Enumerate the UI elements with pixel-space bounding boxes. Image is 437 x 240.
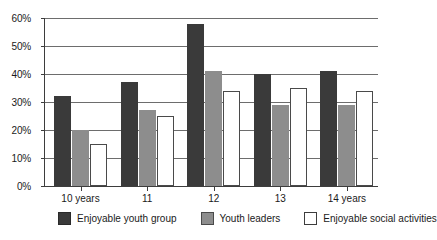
bar bbox=[90, 144, 107, 186]
x-tick-mark bbox=[147, 186, 148, 191]
x-tick-label: 10 years bbox=[61, 193, 99, 204]
bar bbox=[205, 71, 222, 186]
bar bbox=[320, 71, 337, 186]
legend-swatch-icon bbox=[58, 212, 71, 225]
y-tick-label: 10% bbox=[12, 153, 31, 164]
bar-group bbox=[121, 18, 174, 186]
y-tick-label: 40% bbox=[12, 69, 31, 80]
y-tick-label: 60% bbox=[12, 13, 31, 24]
bar bbox=[54, 96, 71, 186]
bar-group bbox=[54, 18, 107, 186]
x-tick-mark bbox=[347, 186, 348, 191]
x-tick-mark bbox=[81, 186, 82, 191]
legend-swatch-icon bbox=[201, 212, 214, 225]
bar bbox=[187, 24, 204, 186]
x-tick-label: 14 years bbox=[328, 193, 366, 204]
legend-item[interactable]: Enjoyable youth group bbox=[58, 212, 177, 225]
bar bbox=[338, 105, 355, 186]
bar bbox=[254, 74, 271, 186]
bar bbox=[290, 88, 307, 186]
legend-label: Enjoyable youth group bbox=[77, 213, 177, 224]
x-tick-mark bbox=[214, 186, 215, 191]
bars-layer bbox=[45, 18, 378, 186]
x-tick-mark bbox=[280, 186, 281, 191]
x-tick-label: 12 bbox=[208, 193, 219, 204]
bar bbox=[356, 91, 373, 186]
x-tick-label: 11 bbox=[142, 193, 152, 204]
y-tick-mark bbox=[41, 186, 45, 187]
bar bbox=[139, 110, 156, 186]
plot-area: 0%10%20%30%40%50%60% 10 years11121314 ye… bbox=[44, 18, 378, 187]
x-tick-label: 13 bbox=[275, 193, 286, 204]
y-tick-label: 50% bbox=[12, 41, 31, 52]
legend-label: Youth leaders bbox=[220, 213, 281, 224]
legend-item[interactable]: Youth leaders bbox=[201, 212, 281, 225]
bar bbox=[121, 82, 138, 186]
bar bbox=[157, 116, 174, 186]
legend-item[interactable]: Enjoyable social activities bbox=[304, 212, 436, 225]
y-tick-label: 0% bbox=[17, 181, 31, 192]
bar-group bbox=[187, 18, 240, 186]
legend-label: Enjoyable social activities bbox=[323, 213, 436, 224]
bar-group bbox=[254, 18, 307, 186]
chart-legend: Enjoyable youth groupYouth leadersEnjoya… bbox=[44, 212, 379, 225]
bar bbox=[223, 91, 240, 186]
y-tick-label: 30% bbox=[12, 97, 31, 108]
bar-group bbox=[320, 18, 373, 186]
bar bbox=[272, 105, 289, 186]
bar bbox=[72, 130, 89, 186]
y-tick-label: 20% bbox=[12, 125, 31, 136]
legend-swatch-icon bbox=[304, 212, 317, 225]
